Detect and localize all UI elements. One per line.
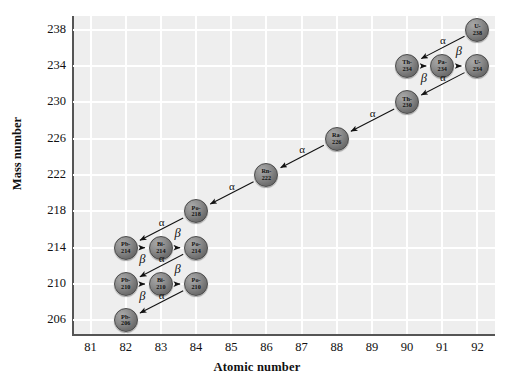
alpha-decay-label: α — [159, 252, 165, 264]
x-tick-label: 89 — [352, 340, 392, 355]
decay-series-chart: U-238Th-234Pa-234U-234Th-230Ra-226Rn-222… — [0, 0, 514, 379]
plot-area: U-238Th-234Pa-234U-234Th-230Ra-226Rn-222… — [73, 16, 495, 334]
x-tick-label: 92 — [457, 340, 497, 355]
y-tick-label: 230 — [24, 94, 66, 109]
alpha-decay-label: α — [159, 216, 165, 228]
nuclide-mass-label: 210 — [121, 284, 130, 291]
nuclide-mass-label: 210 — [191, 284, 200, 291]
alpha-decay-label: α — [299, 143, 305, 155]
vertical-gridline-minor — [336, 16, 338, 334]
nuclide-node[interactable]: Pb-210 — [114, 272, 138, 296]
x-tick-label: 83 — [141, 340, 181, 355]
x-tick-label: 84 — [176, 340, 216, 355]
nuclide-node[interactable]: Po-210 — [184, 272, 208, 296]
x-tick-label: 88 — [317, 340, 357, 355]
nuclide-mass-label: 222 — [262, 175, 271, 182]
y-tick-label: 238 — [24, 22, 66, 37]
nuclide-mass-label: 234 — [402, 66, 411, 73]
beta-decay-label: β — [456, 44, 462, 59]
alpha-decay-label: α — [440, 71, 446, 83]
alpha-decay-label: α — [159, 289, 165, 301]
vertical-gridline-minor — [301, 16, 303, 334]
x-tick-label: 90 — [387, 340, 427, 355]
nuclide-node[interactable]: Rn-222 — [254, 163, 278, 187]
x-axis-title: Atomic number — [0, 360, 514, 375]
alpha-decay-label: α — [440, 34, 446, 46]
vertical-gridline-minor — [230, 16, 232, 334]
x-tick-label: 87 — [282, 340, 322, 355]
nuclide-node[interactable]: Pb-214 — [114, 236, 138, 260]
y-tick-label: 210 — [24, 276, 66, 291]
nuclide-node[interactable]: Th-234 — [395, 54, 419, 78]
nuclide-node[interactable]: U-234 — [465, 54, 489, 78]
y-tick-label: 206 — [24, 312, 66, 327]
nuclide-mass-label: 218 — [191, 211, 200, 218]
horizontal-gridline — [73, 101, 495, 103]
y-tick-label: 218 — [24, 203, 66, 218]
nuclide-mass-label: 230 — [402, 102, 411, 109]
y-tick-label: 226 — [24, 131, 66, 146]
beta-decay-label: β — [139, 252, 145, 267]
nuclide-node[interactable]: Po-214 — [184, 236, 208, 260]
x-tick-label: 82 — [106, 340, 146, 355]
y-axis-title: Mass number — [10, 94, 25, 214]
nuclide-mass-label: 234 — [473, 66, 482, 73]
x-tick-label: 85 — [211, 340, 251, 355]
x-tick-label: 91 — [422, 340, 462, 355]
nuclide-mass-label: 206 — [121, 320, 130, 327]
beta-decay-label: β — [139, 289, 145, 304]
vertical-gridline-minor — [90, 16, 92, 334]
nuclide-mass-label: 214 — [191, 248, 200, 255]
horizontal-gridline — [73, 138, 495, 140]
horizontal-gridline — [73, 174, 495, 176]
nuclide-mass-label: 238 — [473, 30, 482, 37]
vertical-gridline-minor — [371, 16, 373, 334]
y-tick-label: 214 — [24, 240, 66, 255]
beta-decay-label: β — [175, 226, 181, 241]
y-tick-label: 234 — [24, 58, 66, 73]
nuclide-node[interactable]: Po-218 — [184, 199, 208, 223]
nuclide-node[interactable]: Th-230 — [395, 90, 419, 114]
beta-decay-label: β — [421, 71, 427, 86]
x-axis-line — [72, 334, 495, 336]
y-tick-label: 222 — [24, 167, 66, 182]
beta-decay-label: β — [175, 262, 181, 277]
x-tick-label: 81 — [71, 340, 111, 355]
nuclide-mass-label: 226 — [332, 139, 341, 146]
horizontal-gridline — [73, 29, 495, 31]
alpha-decay-label: α — [229, 180, 235, 192]
alpha-decay-label: α — [370, 107, 376, 119]
nuclide-node[interactable]: Ra-226 — [325, 127, 349, 151]
horizontal-gridline — [73, 210, 495, 212]
nuclide-mass-label: 214 — [121, 248, 130, 255]
nuclide-node[interactable]: Pb-206 — [114, 308, 138, 332]
nuclide-node[interactable]: U-238 — [465, 18, 489, 42]
x-tick-label: 86 — [246, 340, 286, 355]
